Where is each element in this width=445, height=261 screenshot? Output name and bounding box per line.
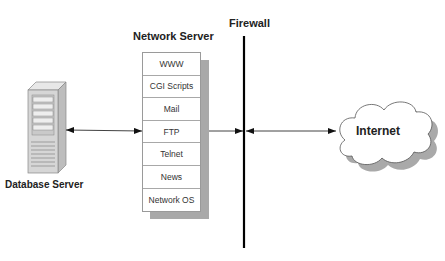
firewall-label: Firewall	[229, 17, 270, 29]
service-www: WWW	[143, 53, 200, 76]
network-server-title: Network Server	[133, 30, 214, 42]
service-mail: Mail	[143, 98, 200, 121]
database-server-label: Database Server	[5, 179, 83, 190]
network-server-stack: WWW CGI Scripts Mail FTP Telnet News Net…	[142, 52, 201, 212]
service-network-os: Network OS	[143, 189, 200, 212]
service-ftp: FTP	[143, 121, 200, 144]
service-news: News	[143, 166, 200, 189]
internet-label: Internet	[356, 124, 400, 138]
database-server-icon	[28, 82, 66, 173]
service-cgi-scripts: CGI Scripts	[143, 76, 200, 99]
service-telnet: Telnet	[143, 143, 200, 166]
db-server-link	[66, 130, 142, 131]
